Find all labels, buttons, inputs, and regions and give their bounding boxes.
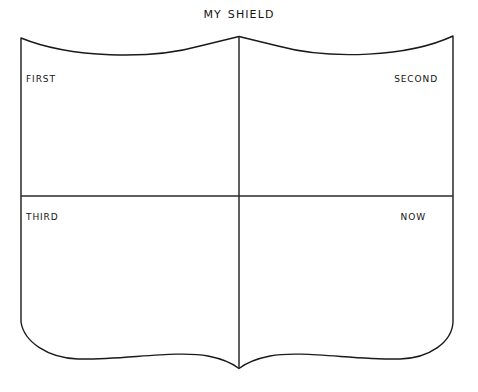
quadrant-label-third: Third bbox=[26, 208, 59, 223]
quadrant-label-layer: First Second Third Now bbox=[21, 36, 453, 368]
quadrant-label-second: Second bbox=[394, 70, 438, 85]
quadrant-label-now: Now bbox=[401, 208, 426, 223]
shield-worksheet: My Shield First Second Third Now bbox=[0, 0, 478, 392]
quadrant-label-first: First bbox=[26, 70, 56, 85]
